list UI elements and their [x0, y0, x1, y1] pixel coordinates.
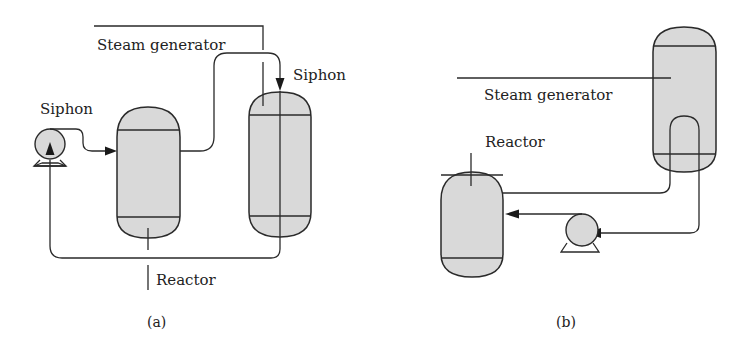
panel-a: Steam generator Siphon Siphon Reactor (a… [34, 26, 346, 330]
caption-a: (a) [147, 314, 166, 330]
arrow-right-icon [105, 147, 117, 156]
label-reactor-a: Reactor [156, 271, 217, 289]
reactor-vessel-a [117, 107, 180, 250]
label-steam-generator-a: Steam generator [97, 36, 226, 54]
caption-b: (b) [556, 314, 576, 330]
panel-b: Steam generator Reactor (b) [441, 27, 716, 330]
steam-generator-vessel-b [653, 27, 716, 183]
label-steam-generator-b: Steam generator [484, 86, 613, 104]
pump-icon-b [561, 214, 599, 252]
reactor-vessel-b [441, 153, 503, 277]
label-siphon-right-a: Siphon [293, 66, 346, 84]
label-reactor-b: Reactor [485, 133, 546, 151]
arrow-down-icon [276, 78, 285, 91]
diagram-canvas: Steam generator Siphon Siphon Reactor (a… [0, 0, 750, 354]
arrow-left-icon [505, 210, 519, 219]
label-siphon-left-a: Siphon [40, 100, 93, 118]
